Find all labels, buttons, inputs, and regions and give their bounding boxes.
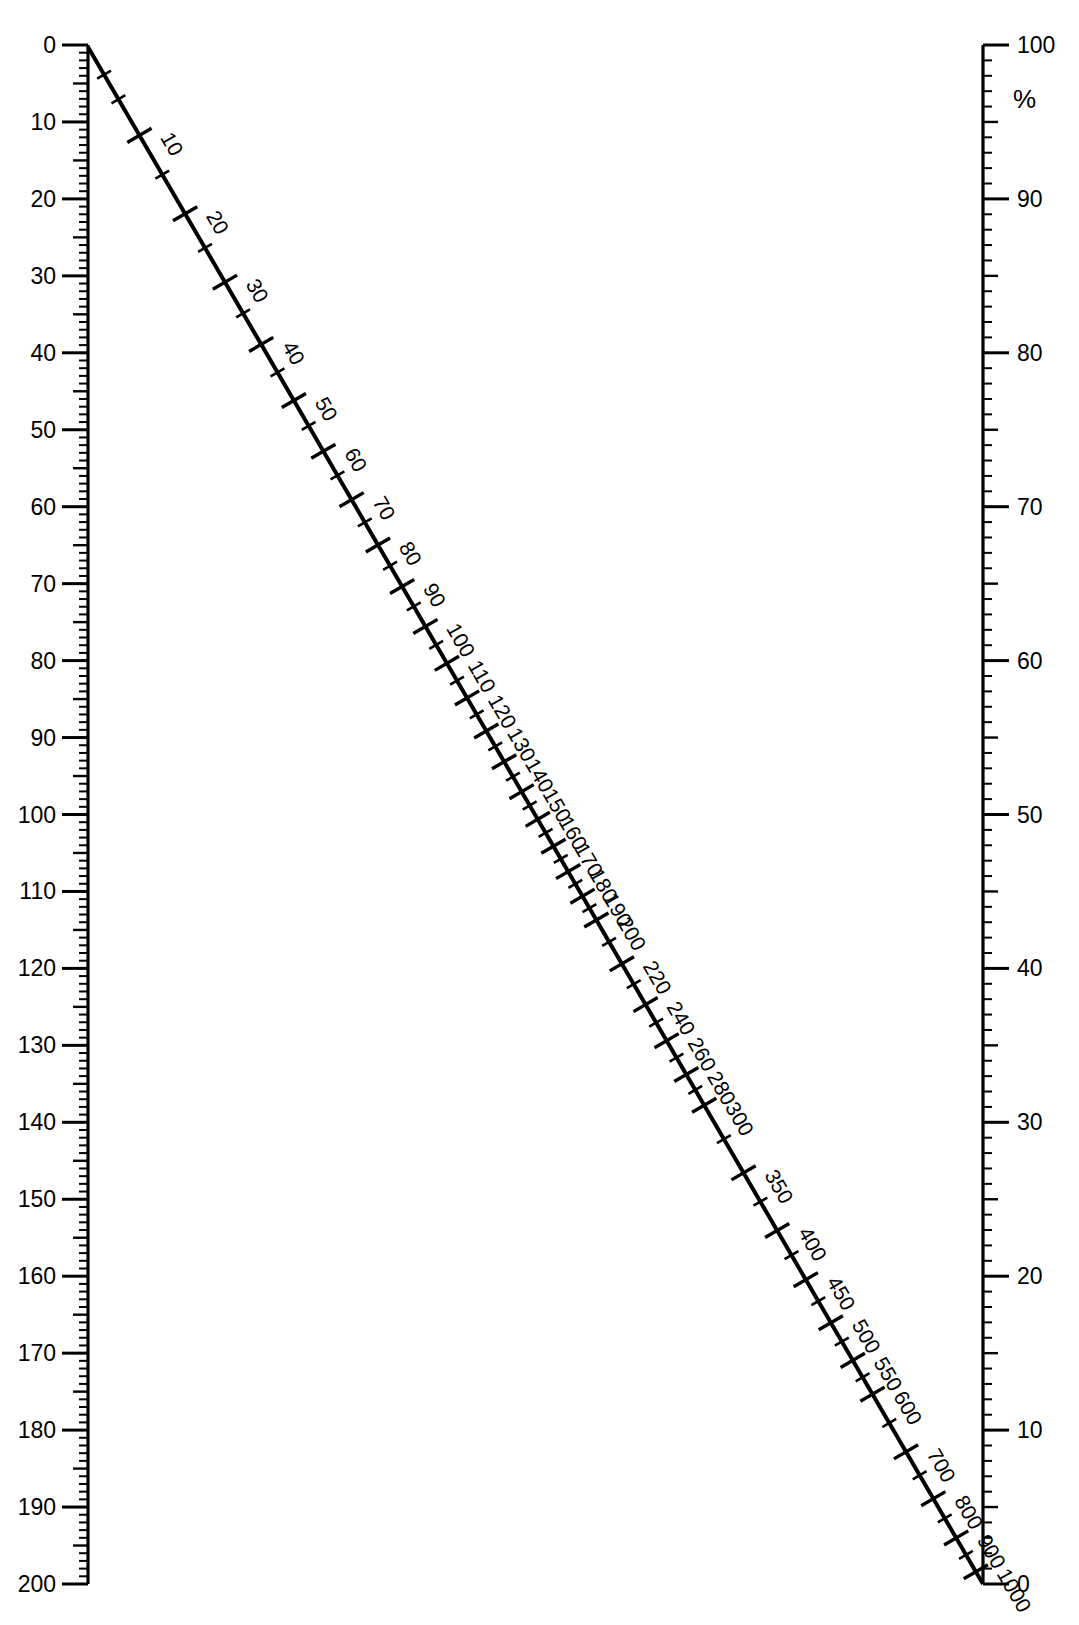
diagonal-tick-label: 50 [311,393,343,425]
diagonal-major-tick [526,812,550,826]
diagonal-tick-label: 500 [848,1315,886,1357]
diagonal-major-tick [921,1492,945,1506]
diagonal-major-tick [556,865,580,879]
diagonal-tick-label: 220 [639,956,677,998]
left-axis-tick-label: 120 [18,955,56,981]
left-axis-tick-label: 180 [18,1417,56,1443]
diagonal-major-tick [311,444,335,458]
left-axis-tick-label: 40 [30,340,56,366]
left-axis-tick-label: 10 [30,109,56,135]
diagonal-tick-label: 90 [419,579,451,611]
diagonal-scale-line: 1020304050607080901001101201301401501601… [88,47,1036,1616]
diagonal-major-tick [282,393,306,407]
diagonal-major-tick [692,1098,716,1112]
diagonal-major-tick [413,619,437,633]
right-axis-tick-label: 10 [1017,1417,1043,1443]
diagonal-tick-label: 120 [484,690,522,732]
right-axis-tick-label: 70 [1017,494,1043,520]
diagonal-tick-label: 450 [823,1272,861,1314]
left-axis-tick-label: 20 [30,186,56,212]
left-axis-tick-label: 100 [18,802,56,828]
diagonal-major-tick [127,128,151,142]
diagonal-major-tick [584,913,608,927]
diagonal-tick-label: 240 [662,997,700,1039]
right-axis-tick-label: 50 [1017,802,1043,828]
diagonal-major-tick [492,755,516,769]
diagonal-tick-label: 260 [683,1033,721,1075]
diagonal-major-tick [655,1034,679,1048]
diagonal-tick-label: 20 [202,206,234,238]
diagonal-major-tick [213,275,237,289]
diagonal-major-tick [610,957,634,971]
diagonal-major-tick [674,1067,698,1081]
diagonal-tick-label: 100 [442,619,480,661]
right-axis-tick-label: 30 [1017,1109,1043,1135]
diagonal-major-tick [455,691,479,705]
left-axis: 0102030405060708090100110120130140150160… [18,32,88,1597]
diagonal-major-tick [510,785,534,799]
diagonal-tick-label: 700 [923,1444,961,1486]
diagonal-tick-label: 80 [395,538,427,570]
left-axis-tick-label: 150 [18,1186,56,1212]
diagonal-tick-label: 60 [340,444,372,476]
left-axis-tick-label: 90 [30,725,56,751]
left-axis-tick-label: 30 [30,263,56,289]
diagonal-tick-label: 30 [242,275,274,307]
nomogram-canvas: 0102030405060708090100110120130140150160… [0,0,1079,1625]
left-axis-tick-label: 160 [18,1263,56,1289]
diagonal-major-tick [841,1353,865,1367]
diagonal-tick-label: 400 [794,1223,832,1265]
diagonal-major-tick [474,724,498,738]
left-axis-tick-label: 200 [18,1571,56,1597]
diagonal-major-tick [894,1445,918,1459]
diagonal-tick-label: 40 [278,337,310,369]
diagonal-major-tick [541,839,565,853]
diagonal-major-tick [794,1273,818,1287]
diagonal-major-tick [570,889,594,903]
diagonal-major-tick [249,337,273,351]
diagonal-tick-label: 10 [156,128,188,160]
diagonal-major-tick [860,1387,884,1401]
left-axis-tick-label: 110 [19,878,56,904]
right-axis-tick-label: 100 [1017,32,1055,58]
right-axis-tick-label: 60 [1017,648,1043,674]
diagonal-major-tick [173,207,197,221]
diagonal-major-tick [390,579,414,593]
left-axis-tick-label: 140 [18,1109,56,1135]
right-axis-tick-label: 40 [1017,955,1043,981]
diagonal-tick-label: 70 [368,492,400,524]
diagonal-major-tick [339,493,363,507]
diagonal-line [88,47,983,1584]
left-axis-tick-label: 60 [30,494,56,520]
right-axis: 1009080706050403020100 [983,32,1055,1597]
diagonal-major-tick [819,1316,843,1330]
left-axis-tick-label: 80 [30,648,56,674]
percent-unit-label: % [1013,84,1036,114]
diagonal-major-tick [944,1531,968,1545]
left-axis-tick-label: 170 [18,1340,56,1366]
diagonal-major-tick [435,656,459,670]
left-axis-tick-label: 50 [30,417,56,443]
diagonal-major-tick [366,538,390,552]
right-axis-tick-label: 90 [1017,186,1043,212]
diagonal-major-tick [731,1166,755,1180]
left-axis-tick-label: 190 [18,1494,56,1520]
diagonal-major-tick [633,998,657,1012]
diagonal-tick-label: 600 [889,1387,927,1429]
nomogram-figure: 0102030405060708090100110120130140150160… [0,0,1079,1625]
percent-symbol: % [1013,84,1036,114]
right-axis-tick-label: 80 [1017,340,1043,366]
left-axis-tick-label: 130 [18,1032,56,1058]
diagonal-tick-label: 110 [464,656,501,697]
diagonal-major-tick [765,1223,789,1237]
diagonal-tick-label: 350 [760,1165,798,1207]
diagonal-tick-label: 900 [973,1530,1011,1572]
diagonal-tick-label: 550 [870,1353,908,1395]
left-axis-tick-label: 0 [43,32,56,58]
right-axis-tick-label: 20 [1017,1263,1043,1289]
left-axis-tick-label: 70 [30,571,56,597]
